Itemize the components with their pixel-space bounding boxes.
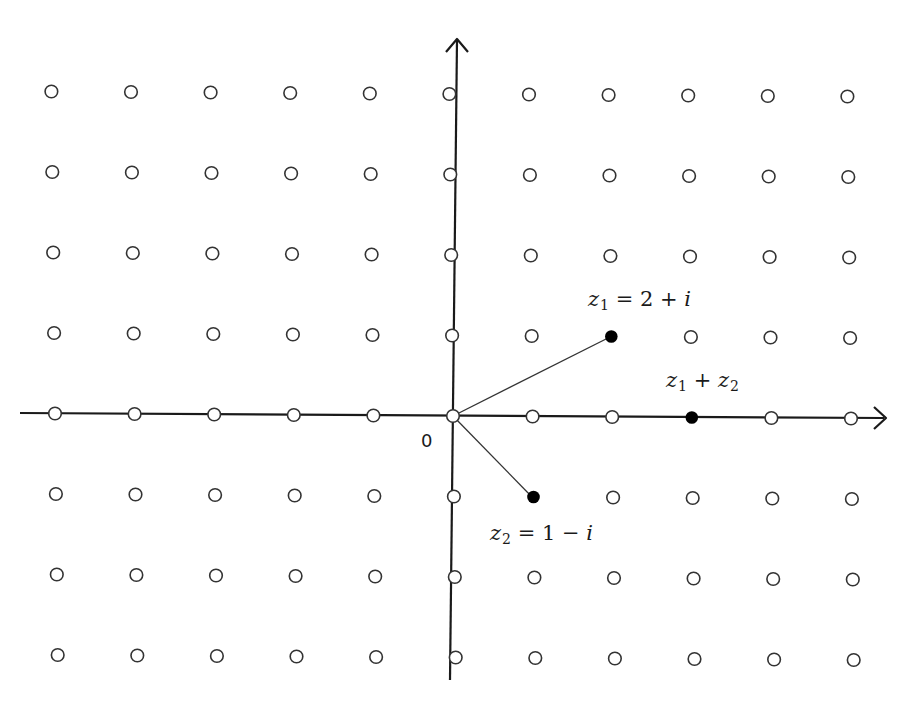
lattice-point [763, 251, 776, 264]
origin-label: 0 [421, 432, 432, 450]
lattice-point [206, 247, 219, 260]
lattice-point [50, 488, 63, 501]
lattice-point [844, 332, 857, 345]
lattice-point [603, 169, 616, 182]
lattice-point [369, 570, 382, 583]
lattice-point [365, 248, 378, 261]
lattice-point [609, 652, 622, 665]
lattice-point [208, 408, 221, 421]
lattice-point [766, 492, 779, 505]
lattice-point [525, 249, 538, 262]
lattice-point [211, 650, 224, 663]
lattice-point [529, 652, 542, 665]
lattice-point [127, 247, 140, 260]
lattice-point [604, 250, 617, 263]
lattice-point [127, 327, 140, 340]
lattice-point [45, 85, 58, 98]
vector-z1 [453, 336, 612, 416]
lattice-point [687, 572, 700, 585]
lattice-point [289, 570, 302, 583]
lattice-point [128, 408, 141, 421]
lattice-point [366, 329, 379, 342]
lattice-point [688, 653, 701, 666]
lattice-point [762, 90, 775, 103]
lattice-point [525, 330, 538, 343]
lattice-point [444, 168, 457, 181]
lattice-point [768, 653, 781, 666]
lattice-point [449, 571, 462, 584]
lattice-point [842, 171, 855, 184]
lattice-point [523, 88, 536, 101]
lattice-point [285, 167, 298, 180]
lattice-point [290, 650, 303, 663]
lattice-point [204, 86, 217, 99]
lattice-point [526, 410, 539, 423]
point-z2 [527, 491, 540, 504]
lattice-point [447, 410, 460, 423]
lattice-point [367, 409, 380, 422]
lattice-point [846, 493, 859, 506]
lattice-point [608, 572, 621, 585]
lattice-point [684, 250, 697, 263]
lattice-point [48, 327, 61, 340]
lattice-point [445, 249, 458, 262]
lattice-point [448, 490, 461, 503]
lattice-point [284, 87, 297, 100]
lattice-point [446, 329, 459, 342]
lattice-point [287, 328, 300, 341]
lattice-point [449, 651, 462, 664]
lattice-point [524, 169, 537, 182]
vector-z2 [453, 416, 532, 497]
complex-plane-diagram [0, 0, 918, 706]
lattice-point [528, 571, 541, 584]
lattice-point [765, 412, 778, 425]
lattice-point [130, 569, 143, 582]
lattice-point [685, 331, 698, 344]
lattice-point [841, 90, 854, 103]
lattice-point [207, 328, 220, 341]
lattice-point [443, 88, 456, 101]
lattice-point [129, 488, 142, 501]
lattice-point [286, 248, 299, 261]
lattice-point [288, 489, 301, 502]
lattice-point [847, 654, 860, 667]
lattice-point [843, 251, 856, 264]
lattice-point [845, 412, 858, 425]
lattice-point [764, 331, 777, 344]
point-sum [686, 411, 699, 424]
lattice-point [607, 491, 620, 504]
z1-label: z1 = 2 + i [588, 289, 691, 312]
lattice-point [762, 170, 775, 183]
lattice-point [210, 569, 223, 582]
lattice-point [686, 492, 699, 505]
lattice-point [682, 89, 695, 102]
lattice-point [205, 167, 218, 180]
lattice-point [51, 568, 64, 581]
lattice-point [131, 649, 144, 662]
lattice-point [125, 86, 138, 99]
lattice-point [47, 246, 60, 259]
sum-label: z1 + z2 [666, 370, 739, 393]
lattice-point [51, 649, 64, 662]
point-z1 [605, 330, 618, 343]
lattice-point [767, 573, 780, 586]
lattice-point [602, 89, 615, 102]
lattice-point [49, 407, 62, 420]
lattice-point [126, 166, 139, 179]
lattice-point [683, 170, 696, 183]
lattice-point [364, 87, 377, 100]
lattice-point [368, 490, 381, 503]
lattice-point [847, 573, 860, 586]
lattice-point [370, 651, 383, 664]
lattice-point [606, 411, 619, 424]
lattice-point [364, 168, 377, 181]
z2-label: z2 = 1 − i [490, 523, 593, 546]
lattice-point [288, 409, 301, 422]
lattice-point [209, 489, 222, 502]
lattice-point [46, 166, 59, 179]
